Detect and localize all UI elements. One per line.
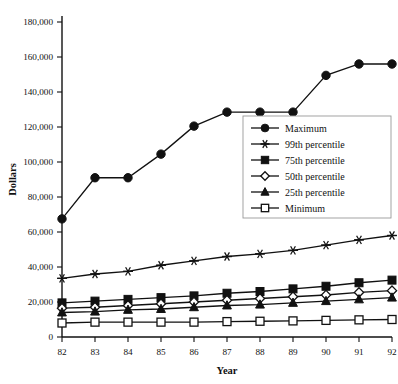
legend-label: 50th percentile [285, 171, 345, 182]
data-point-marker [223, 318, 231, 326]
data-point-marker [289, 108, 297, 116]
data-point-marker [90, 270, 100, 278]
data-point-marker [156, 261, 166, 269]
y-tick-label: 60,000 [28, 227, 54, 237]
data-point-marker [91, 318, 99, 326]
legend-label: Maximum [285, 123, 327, 134]
data-point-marker [190, 122, 198, 130]
data-point-marker [354, 236, 364, 244]
data-point-marker [255, 250, 265, 258]
line-chart: 020,00040,00060,00080,000100,000120,0001… [0, 0, 398, 384]
data-point-marker [157, 150, 165, 158]
data-point-marker [223, 108, 231, 116]
data-point-marker [189, 257, 199, 265]
x-tick-label: 88 [255, 347, 265, 357]
legend-label: 25th percentile [285, 187, 345, 198]
legend-label: 99th percentile [285, 139, 345, 150]
y-axis-ticks: 020,00040,00060,00080,000100,000120,0001… [23, 17, 62, 342]
data-point-marker [355, 316, 363, 324]
y-tick-label: 80,000 [28, 192, 54, 202]
data-point-marker [388, 60, 396, 68]
y-tick-label: 20,000 [28, 297, 54, 307]
data-point-marker [58, 319, 66, 327]
data-point-marker [256, 317, 264, 325]
data-point-marker [322, 71, 330, 79]
data-point-marker [355, 60, 363, 68]
data-point-marker [322, 316, 330, 324]
y-tick-label: 160,000 [23, 52, 53, 62]
x-tick-label: 85 [156, 347, 166, 357]
data-point-marker [256, 108, 264, 116]
series-99th-percentile [57, 231, 397, 282]
y-tick-label: 120,000 [23, 122, 53, 132]
legend-label: 75th percentile [285, 155, 345, 166]
data-point-marker [261, 156, 268, 163]
y-axis-title: Dollars [7, 163, 18, 196]
x-tick-label: 90 [321, 347, 331, 357]
data-point-marker [322, 282, 330, 290]
data-point-marker [321, 241, 331, 249]
y-tick-label: 40,000 [28, 262, 54, 272]
legend: Maximum99th percentile75th percentile50t… [243, 116, 391, 218]
legend-item-minimum[interactable]: Minimum [251, 203, 325, 214]
y-tick-label: 140,000 [23, 87, 53, 97]
x-tick-label: 83 [90, 347, 100, 357]
data-point-marker [124, 318, 132, 326]
legend-item-50th-percentile[interactable]: 50th percentile [251, 171, 345, 182]
data-point-marker [222, 252, 232, 260]
x-tick-label: 92 [387, 347, 397, 357]
data-point-marker [261, 124, 269, 132]
x-tick-label: 84 [123, 347, 133, 357]
data-point-marker [91, 174, 99, 182]
x-tick-label: 91 [354, 347, 364, 357]
chart-container: 020,00040,00060,00080,000100,000120,0001… [0, 0, 398, 384]
data-point-marker [355, 279, 363, 287]
data-point-marker [388, 316, 396, 324]
data-point-marker [388, 293, 397, 301]
x-tick-label: 86 [189, 347, 199, 357]
y-tick-label: 180,000 [23, 17, 53, 27]
y-tick-label: 100,000 [23, 157, 53, 167]
data-point-marker [58, 215, 66, 223]
data-point-marker [261, 204, 268, 211]
data-point-marker [123, 267, 133, 275]
data-point-marker [157, 318, 165, 326]
legend-item-75th-percentile[interactable]: 75th percentile [251, 155, 345, 166]
x-tick-label: 82 [57, 347, 67, 357]
x-tick-label: 89 [288, 347, 298, 357]
data-point-marker [388, 276, 396, 284]
data-point-marker [289, 317, 297, 325]
x-tick-label: 87 [222, 347, 232, 357]
x-axis-title: Year [217, 365, 238, 376]
x-axis-ticks: 8283848586878889909192 [57, 337, 397, 357]
legend-label: Minimum [285, 203, 325, 214]
data-point-marker [124, 174, 132, 182]
data-point-marker [387, 231, 397, 239]
data-point-marker [288, 246, 298, 254]
series-minimum [58, 316, 396, 328]
y-tick-label: 0 [48, 332, 53, 342]
data-point-marker [190, 318, 198, 326]
